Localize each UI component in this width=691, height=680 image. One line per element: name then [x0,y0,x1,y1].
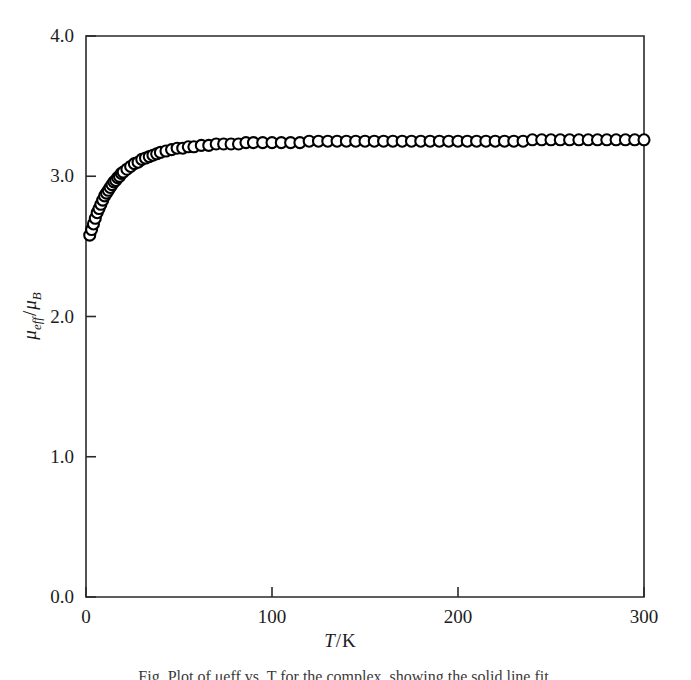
x-tick-label: 0 [81,606,91,627]
y-axis-title-subscript-B: B [29,292,44,300]
plot-frame [86,36,644,597]
x-axis-title-unit: K [342,630,356,651]
y-tick-label: 1.0 [50,446,74,467]
x-tick-label: 200 [444,606,473,627]
y-axis-tick-labels: 0.01.02.03.04.0 [50,25,74,607]
x-axis-tick-labels: 0100200300 [81,606,658,627]
y-axis-title-separator: / [19,310,40,316]
y-tick-label: 0.0 [50,586,74,607]
muff-vs-temperature-chart: 0.01.02.03.04.0 0100200300 T/K μeff/μB [0,0,691,680]
y-tick-label: 4.0 [50,25,74,46]
y-axis-title: μeff/μB [19,292,44,340]
svg-text:μeff/μB: μeff/μB [19,292,44,340]
x-axis-ticks [86,587,644,597]
y-axis-title-symbol-2: μ [19,300,40,311]
data-point-marker [639,134,650,145]
x-axis-title: T/K [324,630,356,651]
figure-container: 0.01.02.03.04.0 0100200300 T/K μeff/μB F… [0,0,691,680]
y-axis-ticks [86,36,96,597]
svg-text:T/K: T/K [324,630,356,651]
x-tick-label: 100 [258,606,287,627]
y-axis-title-symbol-1: μ [19,330,40,341]
x-tick-label: 300 [630,606,659,627]
figure-caption: Fig. Plot of μeff vs. T for the complex,… [0,664,691,680]
x-axis-title-separator: / [336,630,342,651]
data-point-markers [84,134,649,240]
y-tick-label: 2.0 [50,306,74,327]
y-tick-label: 3.0 [50,165,74,186]
x-axis-title-symbol: T [324,630,336,651]
